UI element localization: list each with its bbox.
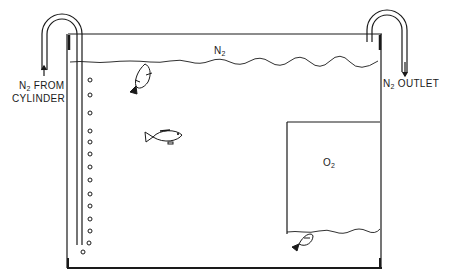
outlet-tube <box>367 10 407 72</box>
o2-chamber-label: O2 <box>323 157 335 171</box>
o2-subscript: 2 <box>331 162 335 169</box>
o2-chamber <box>287 122 380 234</box>
o2-symbol: O <box>323 157 331 168</box>
fish-under-chamber-icon <box>292 234 313 251</box>
headspace-n2-label: N2 <box>214 45 226 59</box>
fish-at-surface-icon <box>130 64 152 94</box>
inlet-tube <box>42 14 82 245</box>
n2-outlet-symbol: N <box>383 78 391 89</box>
n2-inlet-label-line2: CYLINDER <box>12 93 65 104</box>
fish-midwater-icon <box>145 130 182 144</box>
n2-inlet-symbol: N <box>19 80 27 91</box>
n2-outlet-text: OUTLET <box>395 78 439 89</box>
n2-inlet-label: N2 FROM <box>19 80 64 94</box>
tank <box>67 34 382 268</box>
headspace-symbol: N <box>214 45 222 56</box>
headspace-subscript: 2 <box>222 50 226 57</box>
apparatus-diagram <box>0 0 456 279</box>
n2-inlet-from: FROM <box>31 80 65 91</box>
n2-outlet-label: N2 OUTLET <box>383 78 439 92</box>
bubbles <box>81 78 92 254</box>
